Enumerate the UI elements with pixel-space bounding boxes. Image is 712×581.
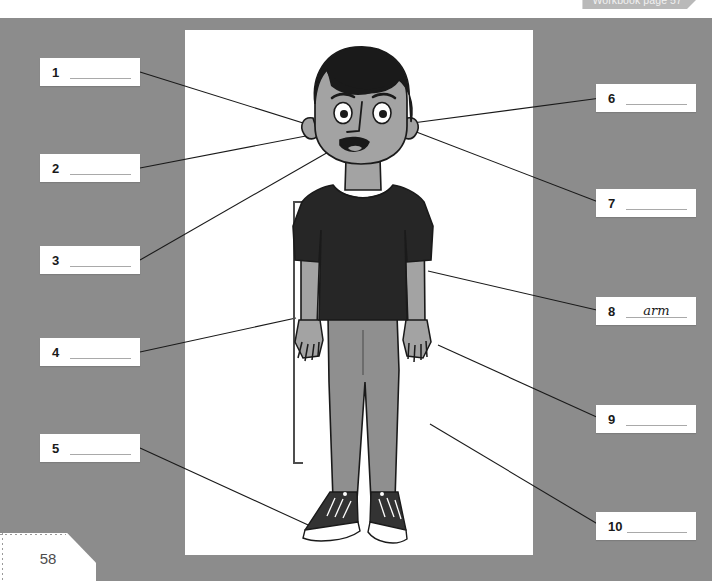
label-answer-rule-8[interactable]: arm xyxy=(626,304,687,318)
label-answer-rule-7[interactable] xyxy=(626,196,687,210)
label-answer-rule-9[interactable] xyxy=(626,412,687,426)
label-number-8: 8 xyxy=(608,304,621,319)
left-hand xyxy=(295,320,323,361)
label-answer-rule-2[interactable] xyxy=(70,161,131,175)
left-shoe xyxy=(303,492,360,541)
label-answer-8: arm xyxy=(643,304,669,317)
label-number-6: 6 xyxy=(608,91,621,106)
label-box-10[interactable]: 10 xyxy=(596,512,696,540)
right-shoe xyxy=(368,492,407,543)
workbook-page-tab: Workbook page 57 xyxy=(582,0,704,9)
label-box-5[interactable]: 5 xyxy=(40,434,140,462)
label-box-9[interactable]: 9 xyxy=(596,405,696,433)
right-hand xyxy=(403,320,431,362)
label-answer-rule-1[interactable] xyxy=(70,65,131,79)
label-number-9: 9 xyxy=(608,412,621,427)
label-answer-rule-10[interactable] xyxy=(627,519,687,533)
right-eye xyxy=(373,103,391,124)
label-answer-rule-3[interactable] xyxy=(70,253,131,267)
label-number-4: 4 xyxy=(52,345,65,360)
left-eye xyxy=(334,103,352,124)
cartoon-figure xyxy=(185,30,533,555)
label-box-2[interactable]: 2 xyxy=(40,154,140,182)
label-answer-rule-4[interactable] xyxy=(70,345,131,359)
worksheet-page: Workbook page 57 xyxy=(0,0,712,581)
head xyxy=(302,47,418,164)
label-number-1: 1 xyxy=(52,65,65,80)
label-box-6[interactable]: 6 xyxy=(596,84,696,112)
label-box-3[interactable]: 3 xyxy=(40,246,140,274)
label-box-1[interactable]: 1 xyxy=(40,58,140,86)
label-box-4[interactable]: 4 xyxy=(40,338,140,366)
label-box-8[interactable]: 8 arm xyxy=(596,297,696,325)
label-number-3: 3 xyxy=(52,253,65,268)
page-number: 58 xyxy=(0,550,96,567)
label-number-7: 7 xyxy=(608,196,621,211)
corner-dotted-rule-horizontal xyxy=(0,534,66,535)
label-answer-rule-5[interactable] xyxy=(70,441,131,455)
label-number-10: 10 xyxy=(608,519,622,534)
label-number-2: 2 xyxy=(52,161,65,176)
label-number-5: 5 xyxy=(52,441,65,456)
label-answer-rule-6[interactable] xyxy=(626,91,687,105)
label-box-7[interactable]: 7 xyxy=(596,189,696,217)
pants xyxy=(328,315,399,500)
